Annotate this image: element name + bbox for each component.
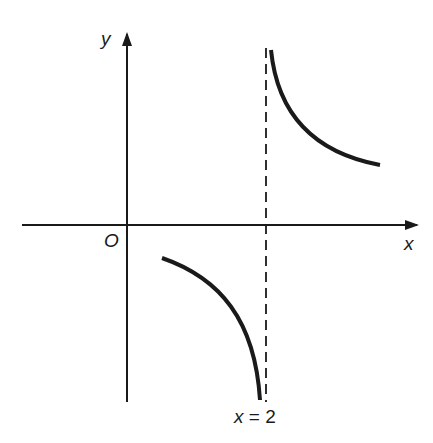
- asymptote-label: x = 2: [234, 406, 276, 428]
- graph-canvas: [0, 0, 433, 443]
- origin-label: O: [104, 230, 119, 252]
- curve-lower-branch: [162, 258, 260, 400]
- curve-upper-branch: [271, 50, 380, 165]
- x-axis-label: x: [404, 233, 414, 255]
- asymptote-label-var: x: [234, 406, 244, 427]
- asymptote-label-val: 2: [265, 406, 276, 427]
- asymptote-label-eq: =: [249, 406, 260, 427]
- y-axis-label: y: [101, 28, 111, 50]
